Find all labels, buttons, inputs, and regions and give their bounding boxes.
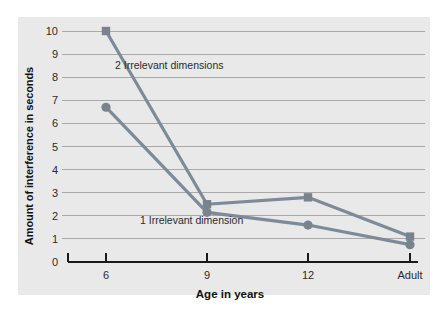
y-axis-tick-label: 0 bbox=[32, 257, 58, 267]
y-axis-tick-label: 10 bbox=[32, 26, 58, 36]
y-axis-tick-label: 5 bbox=[32, 142, 58, 152]
y-axis-tick-label: 2 bbox=[32, 211, 58, 221]
x-axis-title: Age in years bbox=[140, 288, 320, 300]
x-axis-tick-label: 6 bbox=[71, 270, 141, 281]
y-axis-tick-label: 8 bbox=[32, 72, 58, 82]
series-annotation-label: 1 Irrelevant dimension bbox=[140, 215, 243, 226]
x-axis-tick-label: 12 bbox=[273, 270, 343, 281]
y-axis-tick-label: 4 bbox=[32, 165, 58, 175]
y-axis-tick-label: 7 bbox=[32, 95, 58, 105]
x-axis-tick-label: 9 bbox=[172, 270, 242, 281]
y-axis-title: Amount of interference in seconds bbox=[23, 61, 35, 251]
x-axis-tick-label: Adult bbox=[375, 270, 445, 281]
chart-figure: 0123456789106912Adult2 Irrelevant dimens… bbox=[0, 0, 448, 310]
y-axis-tick-label: 1 bbox=[32, 234, 58, 244]
y-axis-tick-label: 6 bbox=[32, 118, 58, 128]
axes-group bbox=[68, 253, 418, 262]
series-annotation-label: 2 Irrelevant dimensions bbox=[115, 60, 224, 71]
y-axis-tick-label: 3 bbox=[32, 188, 58, 198]
line-chart-canvas bbox=[0, 0, 448, 310]
y-axis-tick-label: 9 bbox=[32, 49, 58, 59]
